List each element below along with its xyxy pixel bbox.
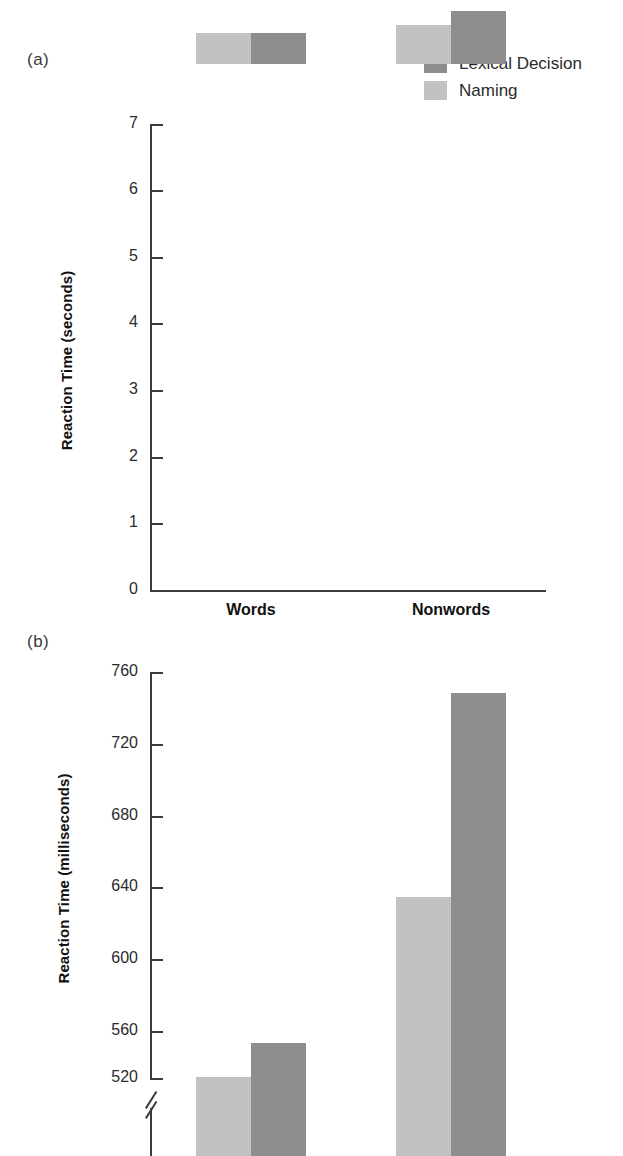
panel-b-tick-label-640: 640	[78, 877, 138, 895]
panel-b-tick-label-720: 720	[78, 734, 138, 752]
panel-a-tick-3	[152, 390, 163, 392]
panel-a-category-label-words: Words	[191, 601, 311, 619]
panel-a-tick-label-2: 2	[98, 447, 138, 465]
panel-a-plot: 7 6 5 4 3 2 1 0 Words Nonwords	[0, 0, 623, 630]
panel-b-tick-720	[152, 744, 163, 746]
panel-a-bar-nonwords-lexical-decision	[451, 11, 506, 64]
panel-a-bar-nonwords-naming	[396, 25, 451, 64]
panel-b: (b) Reaction Time (milliseconds) 760 720…	[0, 630, 623, 1156]
panel-a-tick-1	[152, 523, 163, 525]
panel-b-bar-nonwords-lexical-decision	[451, 693, 506, 1156]
panel-b-tick-520	[152, 1078, 163, 1080]
panel-a-category-label-nonwords: Nonwords	[391, 601, 511, 619]
panel-a-tick-label-3: 3	[98, 380, 138, 398]
panel-a-y-axis	[150, 124, 152, 592]
panel-a-tick-label-5: 5	[98, 247, 138, 265]
panel-b-group-words	[196, 630, 306, 1156]
panel-b-group-nonwords	[396, 630, 506, 1156]
panel-b-y-axis	[150, 672, 152, 1080]
panel-a-tick-7	[152, 124, 163, 126]
panel-b-tick-label-560: 560	[78, 1021, 138, 1039]
panel-b-tick-760	[152, 672, 163, 674]
panel-a-tick-4	[152, 323, 163, 325]
panel-a-tick-label-7: 7	[98, 114, 138, 132]
panel-b-bar-words-lexical-decision	[251, 1043, 306, 1156]
panel-b-tick-640	[152, 887, 163, 889]
panel-a: (a) Lexical Decision Naming Reaction Tim…	[0, 0, 623, 630]
panel-a-tick-6	[152, 190, 163, 192]
panel-a-bar-words-lexical-decision	[251, 33, 306, 64]
panel-b-bar-nonwords-naming	[396, 897, 451, 1156]
panel-b-tick-label-520: 520	[78, 1068, 138, 1086]
panel-b-axis-break-icon	[139, 1088, 165, 1118]
panel-b-tick-600	[152, 959, 163, 961]
panel-b-tick-label-600: 600	[78, 949, 138, 967]
panel-a-tick-2	[152, 457, 163, 459]
panel-a-tick-label-0: 0	[98, 580, 138, 598]
panel-a-bar-words-naming	[196, 33, 251, 64]
panel-b-tick-label-680: 680	[78, 806, 138, 824]
panel-a-x-axis	[150, 590, 546, 592]
panel-b-bar-words-naming	[196, 1077, 251, 1156]
panel-b-tick-label-760: 760	[78, 662, 138, 680]
panel-a-tick-5	[152, 257, 163, 259]
panel-a-tick-label-1: 1	[98, 513, 138, 531]
panel-b-plot: 760 720 680 640 600 560 520	[0, 630, 623, 1156]
panel-b-tick-680	[152, 816, 163, 818]
panel-a-tick-label-6: 6	[98, 180, 138, 198]
panel-a-tick-label-4: 4	[98, 313, 138, 331]
panel-b-tick-560	[152, 1031, 163, 1033]
